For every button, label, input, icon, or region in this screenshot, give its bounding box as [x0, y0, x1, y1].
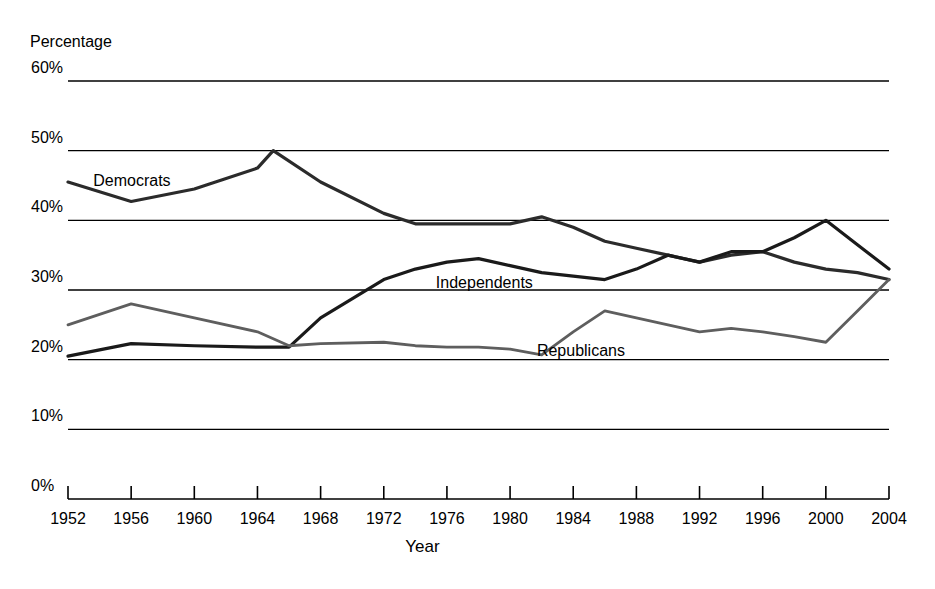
series-lines [68, 151, 889, 357]
y-tick-label: 50% [31, 130, 63, 146]
x-axis-title: Year [0, 537, 935, 557]
y-tick-label: 60% [31, 60, 63, 76]
y-tick-label: 20% [31, 339, 63, 355]
x-axis [68, 486, 889, 499]
x-tick-label: 1988 [606, 511, 666, 527]
series-label-democrats: Democrats [93, 173, 170, 189]
x-tick-label: 1956 [101, 511, 161, 527]
x-tick-label: 1992 [670, 511, 730, 527]
x-tick-label: 1960 [164, 511, 224, 527]
x-tick-label: 1952 [38, 511, 98, 527]
x-tick-label: 1976 [417, 511, 477, 527]
x-tick-label: 1980 [480, 511, 540, 527]
x-axis-title-text: Year [405, 537, 439, 556]
chart-container: Percentage 60%50%40%30%20%10%0% 19521956… [0, 0, 935, 589]
x-tick-label: 1972 [354, 511, 414, 527]
y-tick-label: 10% [31, 408, 63, 424]
x-tick-label: 1984 [543, 511, 603, 527]
x-tick-label: 1964 [227, 511, 287, 527]
x-tick-label: 2004 [859, 511, 919, 527]
series-label-independents: Independents [436, 275, 533, 291]
x-tick-label: 2000 [796, 511, 856, 527]
x-tick-label: 1968 [291, 511, 351, 527]
x-tick-label: 1996 [733, 511, 793, 527]
y-tick-label: 40% [31, 199, 63, 215]
y-tick-label: 0% [31, 478, 54, 494]
series-label-republicans: Republicans [537, 343, 625, 359]
line-chart-plot [0, 0, 935, 589]
y-tick-label: 30% [31, 269, 63, 285]
